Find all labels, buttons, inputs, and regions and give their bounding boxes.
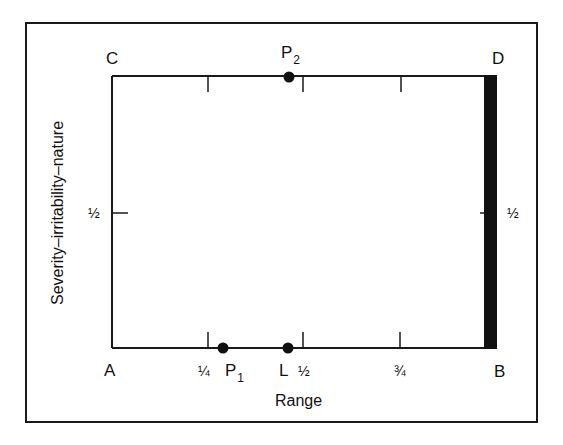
- top-ticks: [208, 76, 401, 92]
- x-tick-half: ½: [298, 364, 310, 378]
- point-label-l: L: [279, 362, 288, 379]
- corner-label-b: B: [494, 363, 505, 380]
- corner-label-d: D: [492, 50, 504, 67]
- x-axis-label: Range: [275, 392, 322, 410]
- x-tick-quarter: ¼: [198, 364, 210, 378]
- y-tick-half-left: ½: [88, 206, 100, 220]
- point-p1: [218, 343, 229, 354]
- highlighted-edge-bd: [484, 75, 497, 349]
- y-axis-label: Severity–irritability–nature: [49, 121, 67, 305]
- x-tick-three-quarter: ¾: [394, 364, 406, 378]
- point-p2: [284, 72, 295, 83]
- bottom-ticks: [208, 332, 400, 348]
- point-label-p2: P2: [281, 44, 300, 61]
- plot-box: [112, 76, 490, 348]
- y-tick-half-right: ½: [507, 206, 519, 220]
- corner-label-a: A: [104, 362, 115, 379]
- corner-label-c: C: [106, 50, 118, 67]
- point-label-p1: P1: [225, 362, 244, 379]
- point-l: [283, 343, 294, 354]
